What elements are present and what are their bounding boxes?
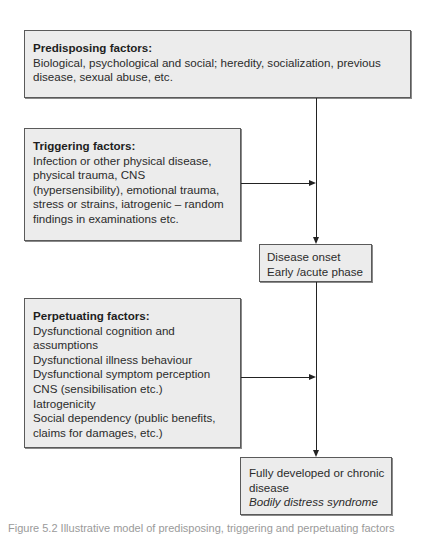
triggering-line: stress or strains, iatrogenic – random [33,197,232,212]
connector-predisposing-to-onset [316,98,317,237]
perpetuating-line: assumptions [33,338,232,353]
chronic-disease-box: Fully developed or chronic disease Bodil… [240,457,392,515]
connector-perpetuating-to-flow [241,377,309,378]
triggering-line: findings in examinations etc. [33,212,232,227]
perpetuating-line: claims for damages, etc.) [33,426,232,441]
perpetuating-line: Dysfunctional illness behaviour [33,353,232,368]
final-line: disease [249,481,383,496]
triggering-line: (hypersensibility), emotional trauma, [33,183,232,198]
connector-onset-to-final [316,282,317,450]
perpetuating-line: Iatrogenicity [33,397,232,412]
triggering-line: physical trauma, CNS [33,168,232,183]
triggering-line: Infection or other physical disease, [33,154,232,169]
triggering-title: Triggering factors: [33,139,232,154]
perpetuating-factors-box: Perpetuating factors: Dysfunctional cogn… [24,298,241,448]
arrowhead-perpetuating [309,374,316,380]
onset-line: Disease onset [267,250,364,265]
predisposing-factors-box: Predisposing factors: Biological, psycho… [24,30,411,98]
disease-onset-box: Disease onset Early /acute phase [259,244,372,282]
perpetuating-title: Perpetuating factors: [33,309,232,324]
predisposing-title: Predisposing factors: [33,41,402,56]
onset-line: Early /acute phase [267,265,364,280]
connector-triggering-to-flow [241,183,309,184]
figure-caption: Figure 5.2 Illustrative model of predisp… [8,522,394,534]
perpetuating-line: Dysfunctional cognition and [33,324,232,339]
final-line: Fully developed or chronic [249,466,383,481]
predisposing-line: Biological, psychological and social; he… [33,56,402,71]
perpetuating-line: Social dependency (public benefits, [33,411,232,426]
predisposing-line: disease, sexual abuse, etc. [33,70,402,85]
arrowhead-triggering [309,180,316,186]
triggering-factors-box: Triggering factors: Infection or other p… [24,128,241,241]
arrowhead-into-final [313,450,319,457]
final-italic-line: Bodily distress syndrome [249,495,383,510]
perpetuating-line: Dysfunctional symptom perception [33,367,232,382]
arrowhead-into-onset [313,237,319,244]
perpetuating-line: CNS (sensibilisation etc.) [33,382,232,397]
